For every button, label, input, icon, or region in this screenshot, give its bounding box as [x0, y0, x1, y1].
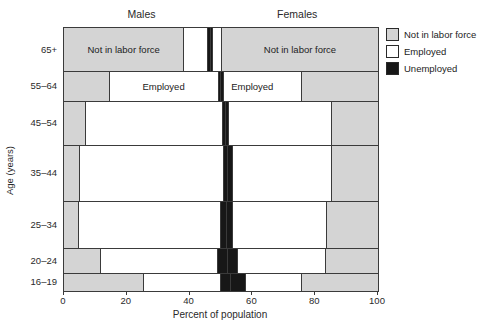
female-not-in-labor-force-segment	[325, 249, 378, 273]
age-tick-label: 65+	[2, 43, 57, 54]
males-header: Males	[82, 8, 202, 20]
column-headers: Males Females	[63, 8, 377, 22]
plot-area: Not in labor forceNot in labor forceEmpl…	[63, 27, 379, 292]
x-tick-label: 20	[111, 295, 141, 306]
age-tick-label: 45–54	[2, 117, 57, 128]
male-not-in-labor-force-segment	[64, 274, 143, 291]
male-employed-segment	[85, 102, 222, 145]
female-unemployed-segment	[230, 274, 245, 291]
segment-label: Employed	[231, 81, 273, 92]
male-not-in-labor-force-segment	[64, 102, 85, 145]
female-not-in-labor-force-segment	[301, 72, 378, 101]
female-employed-segment	[232, 202, 327, 248]
x-axis-title: Percent of population	[63, 309, 377, 320]
legend-item-unemployed: Unemployed	[386, 62, 476, 75]
x-tick-label: 60	[236, 295, 266, 306]
age-row-25-34	[64, 201, 378, 248]
female-unemployed-segment	[227, 249, 237, 273]
female-employed-segment	[237, 249, 325, 273]
male-not-in-labor-force-segment	[64, 249, 100, 273]
legend-item-not-in-labor-force: Not in labor force	[386, 28, 476, 41]
age-row-55-64: EmployedEmployed	[64, 71, 378, 101]
age-tick-label: 20–24	[2, 254, 57, 265]
females-header: Females	[237, 8, 357, 20]
female-employed-segment	[245, 274, 301, 291]
segment-label: Not in labor force	[87, 44, 159, 55]
x-tick-label: 40	[174, 295, 204, 306]
female-employed-segment	[212, 28, 220, 71]
legend-label: Employed	[404, 46, 446, 57]
female-not-in-labor-force-segment	[331, 102, 378, 145]
female-not-in-labor-force-segment	[301, 274, 378, 291]
female-not-in-labor-force-segment: Not in labor force	[221, 28, 378, 71]
x-tick-label: 80	[299, 295, 329, 306]
female-employed-segment	[232, 146, 331, 201]
age-row-45-54	[64, 101, 378, 145]
legend-label: Not in labor force	[404, 29, 476, 40]
male-employed-segment: Employed	[109, 72, 218, 101]
male-unemployed-segment	[217, 249, 227, 273]
x-axis-ticks: 020406080100	[63, 290, 377, 306]
x-tick-label: 100	[362, 295, 392, 306]
unemployed-swatch-icon	[386, 62, 399, 75]
male-employed-segment	[183, 28, 206, 71]
segment-label: Not in labor force	[264, 44, 336, 55]
legend-item-employed: Employed	[386, 45, 476, 58]
employed-swatch-icon	[386, 45, 399, 58]
female-not-in-labor-force-segment	[326, 202, 378, 248]
female-employed-segment: Employed	[223, 72, 301, 101]
age-row-16-19	[64, 273, 378, 291]
not-in-labor-force-swatch-icon	[386, 28, 399, 41]
male-not-in-labor-force-segment: Not in labor force	[64, 28, 183, 71]
age-tick-label: 16–19	[2, 276, 57, 287]
figure-canvas: { "colors": { "not_in_labor_force": "#d4…	[0, 0, 504, 330]
male-employed-segment	[100, 249, 217, 273]
age-row-35-44	[64, 145, 378, 201]
segment-label: Employed	[142, 81, 184, 92]
male-employed-segment	[143, 274, 221, 291]
male-employed-segment	[79, 146, 223, 201]
age-tick-label: 55–64	[2, 80, 57, 91]
male-not-in-labor-force-segment	[64, 202, 78, 248]
legend-label: Unemployed	[404, 63, 457, 74]
age-row-65+: Not in labor forceNot in labor force	[64, 28, 378, 71]
y-axis-title: Age (years)	[4, 131, 15, 211]
male-not-in-labor-force-segment	[64, 72, 109, 101]
legend: Not in labor force Employed Unemployed	[386, 28, 476, 79]
x-tick-label: 0	[48, 295, 78, 306]
age-row-20-24	[64, 248, 378, 273]
female-employed-segment	[228, 102, 331, 145]
male-employed-segment	[78, 202, 220, 248]
age-tick-label: 25–34	[2, 218, 57, 229]
male-not-in-labor-force-segment	[64, 146, 79, 201]
male-unemployed-segment	[220, 274, 230, 291]
female-not-in-labor-force-segment	[331, 146, 378, 201]
